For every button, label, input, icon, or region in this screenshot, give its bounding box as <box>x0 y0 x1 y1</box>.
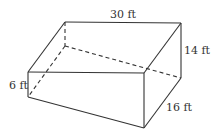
prism-diagram: 30 ft 14 ft 6 ft 16 ft <box>0 0 212 136</box>
label-front-height: 6 ft <box>9 79 29 92</box>
label-depth: 16 ft <box>166 101 193 114</box>
edge-front-top <box>28 72 144 73</box>
label-top-length: 30 ft <box>110 8 137 21</box>
edge-top-left-slope <box>28 22 65 72</box>
edge-top-right-slope <box>144 23 181 73</box>
edge-top-back <box>65 22 181 23</box>
label-back-height: 14 ft <box>184 44 211 57</box>
edge-bottom-front <box>28 97 144 128</box>
